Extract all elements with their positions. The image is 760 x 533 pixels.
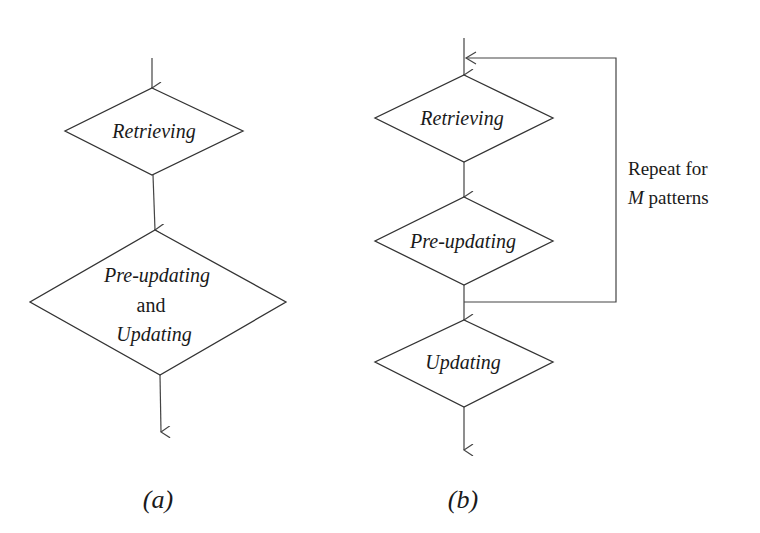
preupdating-node-b: Pre-updating — [375, 197, 553, 285]
and-label-a: and — [137, 294, 166, 316]
exit-arrow-a — [160, 375, 161, 432]
loop-note-rest: patterns — [644, 187, 709, 208]
preupdating-updating-node-a: Pre-updating and Updating — [30, 230, 286, 375]
updating-node-b: Updating — [375, 320, 553, 407]
retrieving-label-a: Retrieving — [111, 120, 195, 143]
loop-note-line2: M patterns — [627, 187, 709, 208]
loop-note-line1: Repeat for — [628, 158, 708, 179]
updating-label-a: Updating — [116, 323, 192, 346]
preupdating-label-b: Pre-updating — [409, 230, 516, 253]
retrieving-node-b: Retrieving — [375, 75, 553, 162]
caption-b: (b) — [448, 485, 478, 514]
loop-note-variable: M — [627, 187, 645, 208]
retrieving-node-a: Retrieving — [65, 88, 243, 175]
updating-label-b: Updating — [425, 351, 501, 374]
diagram-a: Retrieving Pre-updating and Updating (a) — [30, 58, 286, 514]
diagram-b: Retrieving Pre-updating Updating Repeat … — [375, 38, 709, 514]
preupdating-label-a: Pre-updating — [103, 264, 210, 287]
flowchart-canvas: Retrieving Pre-updating and Updating (a)… — [0, 0, 760, 533]
retrieving-label-b: Retrieving — [419, 107, 503, 130]
connector-arrow-a1 — [153, 175, 155, 230]
caption-a: (a) — [143, 485, 173, 514]
